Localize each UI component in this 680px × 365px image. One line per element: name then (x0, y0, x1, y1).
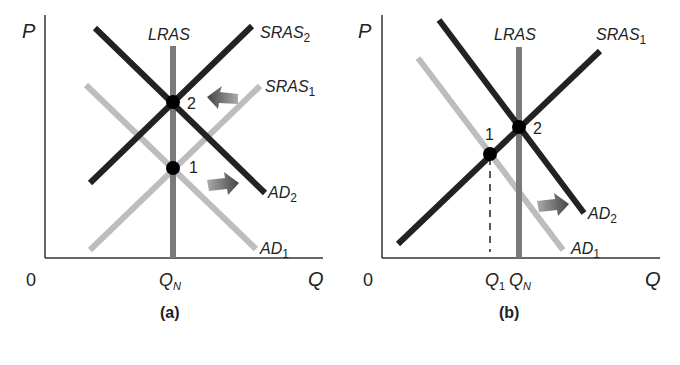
panel-b: P 0 Q LRAS SRAS1 AD2 AD1 1 2 Q1 QN (b) (358, 15, 661, 321)
equilibrium-point-1 (483, 147, 497, 161)
panel-a: P 0 Q LRAS SRAS2 SRAS1 AD2 AD1 2 1 QN (a… (22, 15, 324, 321)
sras-shift-arrow-icon (207, 86, 238, 109)
ad2-label: AD2 (587, 205, 617, 226)
sras1-line (398, 51, 600, 244)
point1-label: 1 (485, 126, 494, 143)
ad2-line (95, 28, 265, 193)
origin-label: 0 (363, 270, 373, 290)
ad2-label: AD2 (267, 184, 297, 205)
qn-label: QN (509, 270, 531, 292)
point2-label: 2 (187, 95, 196, 112)
ad-shift-arrow-icon (537, 193, 569, 216)
ad-shift-arrow-icon (207, 172, 239, 195)
x-axis-label: Q (645, 268, 661, 290)
panel-b-caption: (b) (499, 304, 519, 321)
point1-label: 1 (189, 159, 198, 176)
sras1-label: SRAS1 (596, 26, 647, 47)
lras-label: LRAS (494, 26, 536, 43)
y-axis-label: P (358, 20, 372, 42)
sras2-label: SRAS2 (260, 24, 311, 45)
y-axis-label: P (22, 20, 36, 42)
diagram-canvas: P 0 Q LRAS SRAS2 SRAS1 AD2 AD1 2 1 QN (a… (0, 0, 680, 365)
point2-label: 2 (533, 120, 542, 137)
lras-label: LRAS (148, 26, 190, 43)
qn-label: QN (159, 270, 181, 292)
sras1-label: SRAS1 (265, 78, 316, 99)
panel-a-caption: (a) (160, 304, 180, 321)
equilibrium-point-1 (166, 161, 180, 175)
equilibrium-point-2 (512, 120, 526, 134)
origin-label: 0 (26, 270, 36, 290)
x-axis-label: Q (308, 268, 324, 290)
q1-label: Q1 (485, 270, 505, 292)
equilibrium-point-2 (166, 95, 180, 109)
